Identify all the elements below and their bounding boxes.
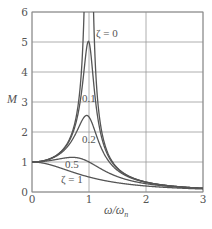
curve-annotation: 0.1 <box>82 92 96 104</box>
x-tick-label: 3 <box>200 193 207 205</box>
y-tick-label: 4 <box>21 66 28 78</box>
x-axis-label-subscript: n <box>124 210 128 219</box>
curve-zeta-0_1 <box>32 41 203 188</box>
x-axis-label-main: ω/ω <box>104 203 124 217</box>
grid-lines <box>32 12 203 192</box>
x-tick-label: 1 <box>86 193 93 205</box>
y-tick-label: 1 <box>21 156 28 168</box>
y-tick-label: 2 <box>21 126 28 138</box>
y-axis-label: M <box>6 92 18 106</box>
curve-annotation: 0.5 <box>65 158 79 170</box>
y-tick-label: 5 <box>21 36 28 48</box>
y-tick-labels: 0123456 <box>21 6 28 198</box>
y-tick-label: 3 <box>21 96 28 108</box>
x-axis-label: ω/ωn <box>104 203 128 219</box>
curve-annotation: ζ = 0 <box>96 27 118 40</box>
x-tick-label: 0 <box>29 193 36 205</box>
curve-zeta-0_2 <box>32 115 203 188</box>
curve-annotation: ζ = 1 <box>61 173 83 186</box>
frequency-response-chart: 0123456 0123 ζ = 00.10.20.5ζ = 1 M ω/ωn <box>0 0 212 229</box>
y-tick-label: 6 <box>21 6 28 18</box>
x-tick-label: 2 <box>143 193 150 205</box>
curve-annotation: 0.2 <box>82 133 96 145</box>
curve-zeta-1 <box>32 162 203 189</box>
y-tick-label: 0 <box>21 186 28 198</box>
